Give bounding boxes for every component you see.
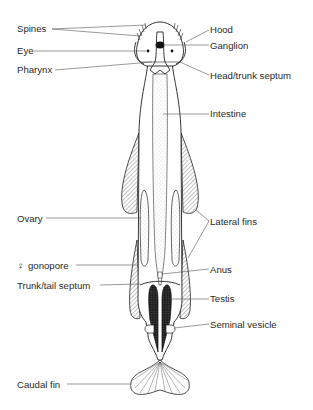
label-testis: Testis: [210, 293, 235, 304]
right-ovary: [171, 190, 180, 266]
label-ovary: Ovary: [17, 213, 43, 224]
right-seminal-vesicle: [166, 325, 175, 333]
label-female-gonopore: gonopore: [28, 260, 69, 271]
label-seminal-vesicle: Seminal vesicle: [210, 319, 277, 330]
label-intestine: Intestine: [210, 108, 246, 119]
label-spines: Spines: [17, 23, 47, 34]
left-eye: [147, 50, 150, 53]
right-eye: [171, 50, 174, 53]
label-anus: Anus: [210, 264, 232, 275]
right-anterior-lateral-fin: [181, 133, 198, 213]
label-ganglion: Ganglion: [210, 40, 248, 51]
label-trunk-tail-septum: Trunk/tail septum: [17, 280, 90, 291]
label-pharynx: Pharynx: [17, 64, 52, 75]
label-caudal-fin: Caudal fin: [17, 379, 60, 390]
left-seminal-vesicle: [145, 325, 154, 333]
left-anterior-lateral-fin: [122, 133, 139, 213]
left-ovary: [140, 190, 149, 266]
chaetognath-anatomy-diagram: Spines Eye Pharynx Hood Ganglion Head/tr…: [0, 0, 313, 410]
anus: [158, 272, 162, 278]
caudal-fin: [131, 360, 190, 395]
label-eye: Eye: [17, 45, 34, 56]
label-head-trunk-septum: Head/trunk septum: [210, 70, 291, 81]
female-symbol-icon: ♀: [17, 260, 24, 271]
label-hood: Hood: [210, 24, 233, 35]
label-lateral-fins: Lateral fins: [210, 216, 257, 227]
